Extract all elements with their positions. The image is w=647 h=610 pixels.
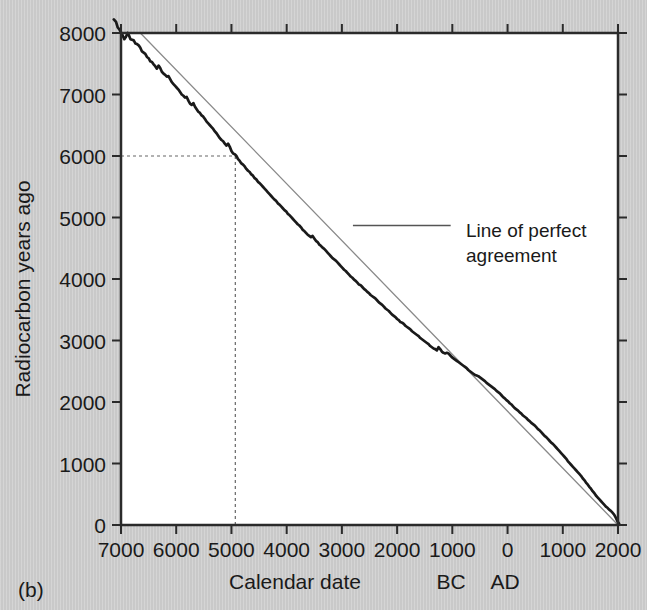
x-tick-label: 5000 xyxy=(208,538,255,561)
y-tick-label: 1000 xyxy=(59,453,106,476)
y-tick-label: 8000 xyxy=(59,22,106,45)
y-tick-label: 4000 xyxy=(59,268,106,291)
x-tick-label: 4000 xyxy=(263,538,310,561)
figure-panel: 7000600050004000300020001000010002000 01… xyxy=(0,0,647,610)
x-axis-title: Calendar date xyxy=(229,570,361,593)
annotation-line-of-perfect-agreement-line2: agreement xyxy=(466,245,558,266)
x-tick-label: 2000 xyxy=(595,538,642,561)
y-tick-label: 0 xyxy=(94,514,106,537)
y-tick-label: 3000 xyxy=(59,330,106,353)
x-tick-label: 6000 xyxy=(153,538,200,561)
x-tick-label: 1000 xyxy=(429,538,476,561)
era-label-bc: BC xyxy=(436,570,465,593)
y-tick-label: 5000 xyxy=(59,207,106,230)
y-tick-label: 2000 xyxy=(59,391,106,414)
x-tick-label: 0 xyxy=(502,538,514,561)
annotation-line-of-perfect-agreement-line1: Line of perfect xyxy=(466,220,587,241)
x-tick-label: 1000 xyxy=(539,538,586,561)
y-tick-label: 7000 xyxy=(59,84,106,107)
y-tick-label: 6000 xyxy=(59,145,106,168)
x-tick-label: 7000 xyxy=(98,538,145,561)
era-label-ad: AD xyxy=(490,570,519,593)
x-tick-label: 3000 xyxy=(319,538,366,561)
panel-label: (b) xyxy=(18,578,44,601)
y-axis-title: Radiocarbon years ago xyxy=(11,180,34,397)
x-axis-tick-labels: 7000600050004000300020001000010002000 xyxy=(98,538,642,561)
x-tick-label: 2000 xyxy=(374,538,421,561)
radiocarbon-calibration-chart: 7000600050004000300020001000010002000 01… xyxy=(0,0,647,610)
y-axis-tick-labels: 010002000300040005000600070008000 xyxy=(59,22,106,537)
